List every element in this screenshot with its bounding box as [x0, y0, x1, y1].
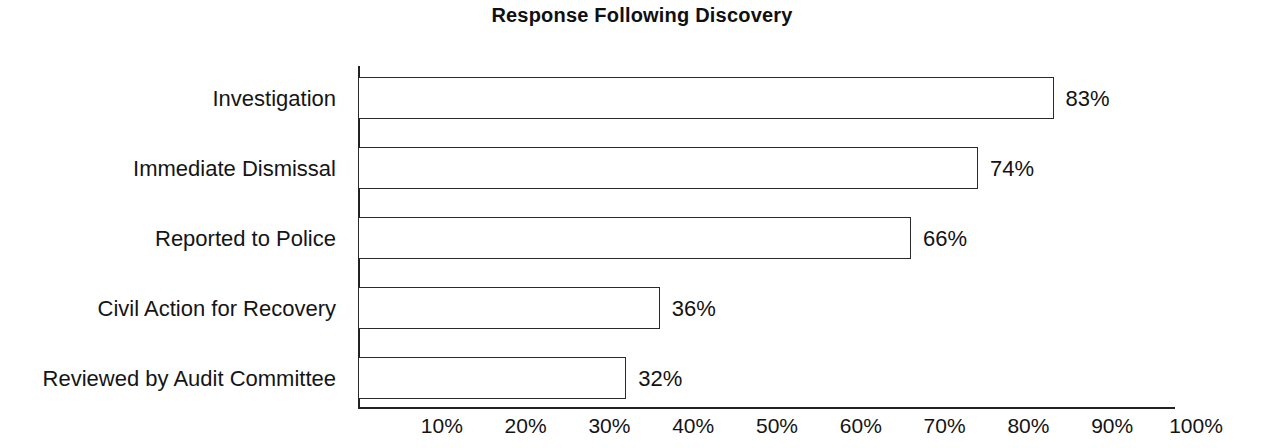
plot-area: Investigation83%Immediate Dismissal74%Re… [0, 0, 1284, 448]
category-label: Civil Action for Recovery [0, 296, 336, 322]
category-label: Reported to Police [0, 226, 336, 252]
bar [358, 217, 911, 259]
bar-chart: Response Following Discovery Investigati… [0, 0, 1284, 448]
bar [358, 357, 626, 399]
bar [358, 77, 1054, 119]
x-axis-line [358, 407, 1175, 409]
category-label: Investigation [0, 86, 336, 112]
x-tick-label: 40% [672, 414, 714, 438]
bar-row: Investigation83% [0, 77, 1284, 121]
bar-value-label: 36% [672, 296, 716, 322]
bar-row: Reported to Police66% [0, 217, 1284, 261]
bar [358, 147, 978, 189]
x-tick-label: 70% [924, 414, 966, 438]
x-tick-label: 50% [756, 414, 798, 438]
x-tick-label: 90% [1091, 414, 1133, 438]
bar-row: Civil Action for Recovery36% [0, 287, 1284, 331]
bar-value-label: 74% [990, 156, 1034, 182]
bar-row: Reviewed by Audit Committee32% [0, 357, 1284, 401]
category-label: Immediate Dismissal [0, 156, 336, 182]
x-tick-label: 60% [840, 414, 882, 438]
bar [358, 287, 660, 329]
x-tick-label: 30% [588, 414, 630, 438]
x-tick-label: 100% [1169, 414, 1223, 438]
bar-value-label: 66% [923, 226, 967, 252]
x-tick-label: 80% [1007, 414, 1049, 438]
x-tick-label: 10% [421, 414, 463, 438]
bar-value-label: 32% [638, 366, 682, 392]
bar-row: Immediate Dismissal74% [0, 147, 1284, 191]
category-label: Reviewed by Audit Committee [0, 366, 336, 392]
bar-value-label: 83% [1066, 86, 1110, 112]
x-tick-label: 20% [505, 414, 547, 438]
